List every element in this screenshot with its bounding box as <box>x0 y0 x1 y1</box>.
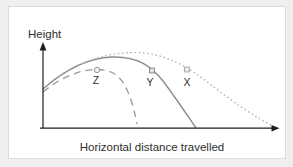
marker-z <box>94 67 99 72</box>
point-z-circle-icon <box>94 67 99 72</box>
point-x-square-icon <box>185 67 190 72</box>
point-label-x: X <box>183 76 190 88</box>
point-label-y: Y <box>146 76 153 88</box>
chart-canvas: Height Horizontal distance travelled Z Y… <box>0 0 293 167</box>
trajectory-diagram: Height Horizontal distance travelled Z Y… <box>0 0 293 167</box>
marker-y <box>150 68 155 73</box>
point-label-z: Z <box>93 74 100 86</box>
marker-x <box>185 67 190 72</box>
point-y-square-icon <box>150 68 155 73</box>
x-axis-label: Horizontal distance travelled <box>80 141 224 153</box>
y-axis-label: Height <box>28 28 62 40</box>
